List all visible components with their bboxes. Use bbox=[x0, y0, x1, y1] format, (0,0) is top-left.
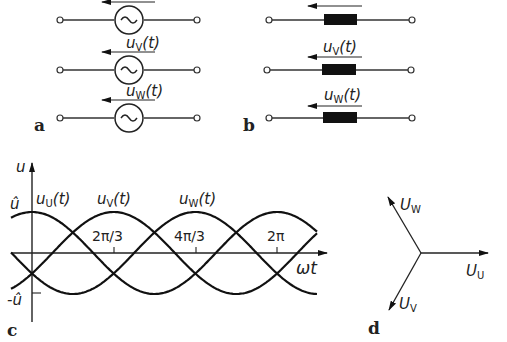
curve-label-v: uV(t) bbox=[97, 190, 131, 209]
terminal-icon bbox=[266, 17, 272, 23]
terminal-icon bbox=[194, 67, 200, 73]
panel-d-label: d bbox=[368, 318, 380, 338]
source-u bbox=[57, 2, 200, 34]
terminal-icon bbox=[57, 115, 63, 121]
terminal-icon bbox=[264, 67, 270, 73]
panel-a-sources: uV(t) uW(t) a bbox=[34, 2, 200, 135]
source-v: uV(t) bbox=[57, 34, 200, 84]
load-u bbox=[266, 6, 415, 25]
panel-c-label: c bbox=[7, 320, 17, 340]
source-v-label: uV(t) bbox=[126, 34, 160, 53]
terminal-icon bbox=[194, 17, 200, 23]
phasor-v-label: UV bbox=[399, 295, 417, 314]
load-v: uV(t) bbox=[264, 38, 414, 75]
resistor-icon bbox=[324, 14, 357, 25]
load-v-label: uV(t) bbox=[323, 38, 357, 57]
y-axis-label: u bbox=[16, 158, 26, 176]
source-w-label: uW(t) bbox=[126, 82, 163, 101]
panel-a-label: a bbox=[34, 115, 45, 135]
resistor-icon bbox=[322, 64, 356, 75]
three-phase-figure: uV(t) uW(t) a bbox=[0, 0, 507, 342]
terminal-icon bbox=[57, 67, 63, 73]
phasor-w-label: UW bbox=[400, 196, 421, 215]
resistor-icon bbox=[323, 112, 357, 123]
trough-label: -û bbox=[7, 291, 22, 309]
panel-d-phasors: UU UW UV d bbox=[368, 196, 488, 338]
terminal-icon bbox=[409, 17, 415, 23]
terminal-icon bbox=[57, 17, 63, 23]
source-w: uW(t) bbox=[57, 82, 200, 132]
peak-label: û bbox=[10, 195, 20, 213]
tick-label-2pi-3: 2π/3 bbox=[92, 228, 123, 244]
tick-label-2pi: 2π bbox=[267, 228, 285, 244]
phasor-u-label: UU bbox=[466, 262, 484, 281]
terminal-icon bbox=[408, 67, 414, 73]
load-w: uW(t) bbox=[266, 86, 415, 123]
curve-label-u: uU(t) bbox=[36, 190, 70, 209]
panel-b-label: b bbox=[243, 115, 255, 135]
curve-label-w: uW(t) bbox=[179, 190, 216, 209]
terminal-icon bbox=[266, 115, 272, 121]
load-w-label: uW(t) bbox=[324, 86, 361, 105]
tick-label-4pi-3: 4π/3 bbox=[174, 228, 205, 244]
terminal-icon bbox=[409, 115, 415, 121]
terminal-icon bbox=[194, 115, 200, 121]
panel-b-loads: uV(t) uW(t) b bbox=[243, 6, 415, 135]
panel-c-waveforms: u ωt û -û 2π/3 4π/3 2π uU(t) uV(t) uW(t)… bbox=[7, 158, 327, 340]
x-axis-label: ωt bbox=[296, 258, 318, 278]
